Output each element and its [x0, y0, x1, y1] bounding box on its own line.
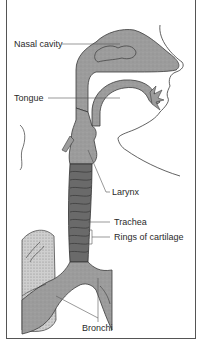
- trachea-shape: [69, 164, 93, 262]
- label-tongue: Tongue: [14, 93, 44, 103]
- label-bronchi: Bronchi: [82, 323, 113, 333]
- respiratory-tract-illustration: [0, 0, 204, 359]
- head-back-outline: [20, 125, 25, 170]
- label-rings-of-cartilage: Rings of cartilage: [114, 232, 184, 242]
- label-nasal-cavity: Nasal cavity: [14, 39, 63, 49]
- label-trachea: Trachea: [114, 217, 147, 227]
- tongue-arch-shape: [92, 80, 160, 126]
- lip-detail: [150, 86, 164, 110]
- label-larynx: Larynx: [112, 187, 139, 197]
